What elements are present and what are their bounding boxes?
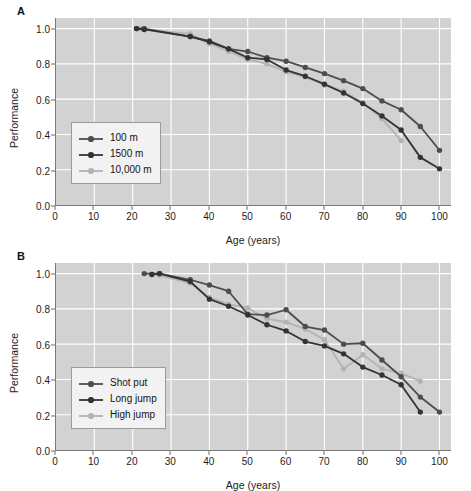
legend-marker-icon [78, 131, 104, 143]
x-tick-mark [131, 451, 132, 455]
x-tick-mark [208, 206, 209, 210]
x-tick-label: 100 [431, 211, 448, 222]
x-tick-label: 20 [126, 211, 137, 222]
panel-a: A Performance Age (years) 0.00.20.40.60.… [0, 0, 471, 244]
panel-b-y-axis-label: Performance [8, 303, 20, 423]
x-tick-mark [439, 451, 440, 455]
y-tick-mark [51, 415, 55, 416]
legend-label: High jump [110, 409, 155, 420]
x-tick-mark [55, 206, 56, 210]
legend-item: 1500 m [78, 145, 152, 161]
legend-label: Long jump [110, 393, 157, 404]
panel-a-label: A [17, 5, 25, 17]
legend-item: High jump [78, 406, 157, 422]
x-tick-mark [247, 206, 248, 210]
y-tick-mark [51, 380, 55, 381]
legend-marker-icon [78, 163, 104, 175]
x-tick-mark [401, 451, 402, 455]
x-tick-label: 100 [431, 456, 448, 467]
x-tick-label: 70 [319, 211, 330, 222]
legend-marker-icon [78, 392, 104, 404]
x-tick-label: 60 [280, 456, 291, 467]
legend-label: 100 m [110, 132, 138, 143]
legend-item: 10,000 m [78, 161, 152, 177]
x-tick-label: 40 [203, 211, 214, 222]
x-tick-mark [170, 451, 171, 455]
x-tick-mark [247, 451, 248, 455]
x-tick-mark [401, 206, 402, 210]
panel-a-y-axis-label: Performance [8, 58, 20, 178]
y-tick-label: 0.0 [36, 201, 50, 212]
x-tick-label: 90 [395, 456, 406, 467]
legend-marker-icon [78, 376, 104, 388]
y-tick-mark [51, 344, 55, 345]
x-tick-mark [324, 206, 325, 210]
legend-label: 1500 m [110, 148, 143, 159]
y-tick-mark [51, 99, 55, 100]
x-tick-mark [362, 451, 363, 455]
y-tick-label: 0.6 [36, 94, 50, 105]
x-tick-label: 0 [52, 211, 58, 222]
x-tick-label: 0 [52, 456, 58, 467]
x-tick-label: 10 [88, 211, 99, 222]
panel-b-label: B [17, 250, 25, 262]
y-tick-mark [51, 309, 55, 310]
panel-b-legend: Shot putLong jumpHigh jump [71, 367, 166, 429]
legend-label: Shot put [110, 377, 147, 388]
y-tick-mark [51, 273, 55, 274]
x-tick-mark [208, 451, 209, 455]
x-tick-label: 70 [319, 456, 330, 467]
y-tick-mark [51, 28, 55, 29]
panel-a-plot: Performance Age (years) 0.00.20.40.60.81… [55, 18, 451, 206]
y-tick-label: 0.2 [36, 410, 50, 421]
x-tick-mark [93, 451, 94, 455]
panel-a-legend: 100 m1500 m10,000 m [71, 122, 161, 184]
x-tick-mark [362, 206, 363, 210]
x-tick-mark [93, 206, 94, 210]
legend-marker-icon [78, 408, 104, 420]
y-tick-label: 0.2 [36, 165, 50, 176]
x-tick-label: 80 [357, 211, 368, 222]
y-tick-label: 0.0 [36, 446, 50, 457]
x-tick-label: 60 [280, 211, 291, 222]
x-tick-label: 80 [357, 456, 368, 467]
x-tick-label: 40 [203, 456, 214, 467]
y-tick-mark [51, 170, 55, 171]
x-tick-mark [55, 451, 56, 455]
y-tick-mark [51, 64, 55, 65]
x-tick-label: 90 [395, 211, 406, 222]
y-tick-label: 0.8 [36, 59, 50, 70]
x-tick-label: 50 [242, 456, 253, 467]
series-line [142, 271, 443, 415]
legend-label: 10,000 m [110, 164, 152, 175]
panel-b-plot: Performance Age (years) 0.00.20.40.60.81… [55, 263, 451, 451]
x-tick-label: 10 [88, 456, 99, 467]
x-tick-label: 20 [126, 456, 137, 467]
y-tick-mark [51, 135, 55, 136]
y-tick-label: 0.8 [36, 304, 50, 315]
panel-b: B Performance Age (years) 0.00.20.40.60.… [0, 245, 471, 489]
x-tick-label: 30 [165, 456, 176, 467]
x-tick-mark [324, 451, 325, 455]
panel-b-x-axis-label: Age (years) [55, 479, 451, 491]
series-line [138, 26, 404, 143]
x-tick-mark [131, 206, 132, 210]
legend-item: Shot put [78, 374, 157, 390]
y-tick-label: 0.4 [36, 375, 50, 386]
x-tick-mark [285, 206, 286, 210]
y-tick-label: 1.0 [36, 268, 50, 279]
x-tick-mark [439, 206, 440, 210]
y-tick-label: 1.0 [36, 23, 50, 34]
legend-item: 100 m [78, 129, 152, 145]
x-tick-mark [285, 451, 286, 455]
y-tick-label: 0.4 [36, 130, 50, 141]
legend-marker-icon [78, 147, 104, 159]
x-tick-label: 50 [242, 211, 253, 222]
x-tick-label: 30 [165, 211, 176, 222]
y-tick-label: 0.6 [36, 339, 50, 350]
x-tick-mark [170, 206, 171, 210]
legend-item: Long jump [78, 390, 157, 406]
